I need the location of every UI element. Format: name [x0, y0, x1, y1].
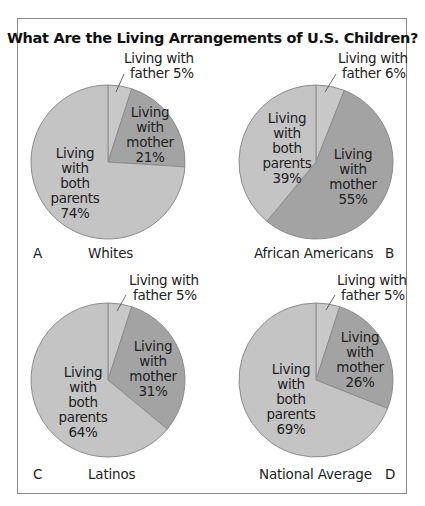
label-both-a: Livingwithbothparents74% — [45, 146, 105, 221]
panel-group-a: Whites — [88, 245, 133, 261]
panel-group-c: Latinos — [88, 466, 135, 482]
label-father-d: Living withfather 5% — [337, 273, 407, 303]
panel-letter-c: C — [33, 466, 42, 482]
label-father-b: Living withfather 6% — [338, 51, 408, 81]
panel-group-b: African Americans — [254, 245, 373, 261]
label-father-c: Living withfather 5% — [129, 273, 199, 303]
panel-group-d: National Average — [259, 466, 372, 482]
label-mother-a: Livingwithmother21% — [120, 105, 180, 165]
panel-letter-b: B — [385, 245, 394, 261]
panel-letter-d: D — [385, 466, 395, 482]
label-mother-d: Livingwithmother26% — [330, 330, 390, 390]
label-mother-c: Livingwithmother31% — [123, 339, 183, 399]
label-both-b: Livingwithbothparents39% — [256, 111, 318, 186]
label-mother-b: Livingwithmother55% — [323, 147, 383, 207]
label-both-c: Livingwithbothparents64% — [53, 365, 113, 440]
label-both-d: Livingwithbothparents69% — [261, 362, 321, 437]
panel-letter-a: A — [33, 245, 42, 261]
label-father-a: Living withfather 5% — [124, 51, 194, 81]
